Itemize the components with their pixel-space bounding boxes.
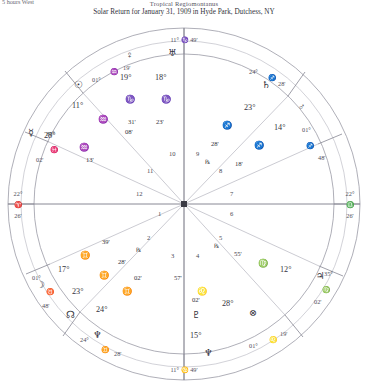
virgo-icon-jupiter: ♍ [258,258,268,268]
planet-node[interactable]: ☊ 24° ♊ 02' [66,274,142,320]
libra-icon: ♎ [346,200,355,209]
chart-header: Tropical Regiomontanus Solar Return for … [0,0,368,17]
svg-text:28': 28' [114,350,121,357]
svg-text:35°: 35° [324,270,333,277]
venus-icon: ♀ [126,49,133,60]
mars-degree: 14° [274,123,285,132]
moon-minute: 39' [102,238,110,245]
jupiter-retrograde-icon: ℞ [214,242,219,249]
svg-text:01°: 01° [92,76,101,83]
svg-text:01°: 01° [302,126,311,133]
planet-pluto[interactable]: ♇ 15° 02' [190,296,201,340]
house-number-4: 4 [196,252,200,259]
planet-venus[interactable]: ♀ 19° ♑ 31' [120,49,136,125]
aquarius-icon: ♒ [110,67,119,76]
planet-fortune[interactable]: ⊗ 28° ♌ 57' [174,274,257,318]
aries-icon: ♈ [14,200,23,209]
house-number-7: 7 [230,190,234,197]
house-number-11: 11 [147,167,153,174]
sun-minute: 08' [125,128,133,135]
cusp-label-5: 01° ♌ 19' [249,330,287,349]
chart-center-hub [181,201,187,207]
mercury2-retrograde-icon: ℞ [136,246,141,253]
pisces-icon: ♓ [50,145,59,154]
sagittarius-icon-saturn: ♐ [222,120,232,130]
jupiter-degree: 12° [280,265,291,274]
house-number-1: 1 [158,210,161,217]
virgo-icon: ♍ [322,285,331,294]
aquarius-icon-sun: ♒ [98,114,108,124]
chart-system-label: Tropical Regiomontanus [0,0,368,8]
house-number-10: 10 [169,150,176,157]
taurus-icon: ♉ [46,287,55,296]
sun-degree: 11° [72,101,83,110]
neptune-bottom-marker[interactable]: ♆ [204,347,213,358]
sagittarius-icon: ♐ [306,141,315,150]
mercury2-degree: 23° [72,287,83,296]
fortune-minute: 57' [174,274,182,281]
midheaven-label: 11° ♑ 49' [170,36,197,44]
planet-uranus[interactable]: ♅ 18° ♑ 23' [155,47,177,125]
gemini-icon-mercury2: ♊ [99,270,109,280]
gemini-icon-node: ♊ [122,286,132,296]
ascendant-minute: 26' [14,212,21,219]
leo-icon-fortune: ♌ [197,286,207,296]
venus-minute: 31' [128,118,136,125]
moon-degree: 17° [58,265,69,274]
node-icon: ☊ [66,309,75,320]
cusp-label-8: 01° ♐ 48' [302,126,325,161]
node-minute: 02' [134,274,142,281]
venus-degree: 19° [120,73,131,82]
mercury2-minute: 28' [118,258,126,265]
gemini-icon: ♊ [101,345,110,354]
svg-text:48': 48' [42,302,49,309]
planet-neptune[interactable]: ♆ [93,329,102,340]
svg-text:24°: 24° [80,336,89,343]
svg-text:28': 28' [278,80,285,87]
neptune-icon-bottom: ♆ [204,347,213,358]
svg-text:19': 19' [123,64,130,71]
uranus-icon: ♅ [168,47,177,58]
house-number-9: 9 [196,150,200,157]
planet-moon[interactable]: ☽ 17° ♊ 39' [36,238,110,290]
saturn-minute: 28' [211,140,219,147]
house-number-3: 3 [171,252,175,259]
planet-sun[interactable]: ☉ 11° ♒ 08' [72,79,133,135]
mercury-minute: 13' [86,156,94,163]
planet-saturn[interactable]: ♄ 23° ♐ 28' ℞ [205,79,271,165]
svg-text:24°: 24° [249,68,258,75]
fortune-icon: ⊗ [249,307,257,318]
mercury-degree: 28° [44,131,55,140]
gemini-icon-moon: ♊ [80,250,90,260]
saturn-icon: ♄ [262,79,271,90]
pluto-icon: ♇ [192,309,201,320]
svg-text:01°: 01° [249,342,258,349]
descendant-minute: 26' [346,212,353,219]
svg-text:19': 19' [280,330,287,337]
saturn-retrograde-icon: ℞ [205,158,210,165]
pluto-degree: 15° [190,331,201,340]
uranus-minute: 23' [156,118,164,125]
jupiter-icon: ♃ [316,270,325,281]
uranus-degree: 18° [155,73,166,82]
mars-minute: 18' [235,160,243,167]
mars-icon: ♂ [298,101,305,112]
leo-icon: ♌ [269,335,278,344]
aquarius-icon-mercury: ♒ [79,142,89,152]
astrology-chart-wheel[interactable]: 11° ♑ 49' 11° ♋ 49' 22° ♈ 26' 22° ♎ 26' … [6,26,362,382]
svg-text:48': 48' [318,154,325,161]
capricorn-icon-venus: ♑ [125,94,135,104]
house-number-5: 5 [219,234,223,241]
capricorn-icon-uranus: ♑ [161,94,171,104]
house-number-2: 2 [147,234,150,241]
ascendant-degree: 22° [14,190,23,197]
house-number-6: 6 [230,210,234,217]
planet-jupiter[interactable]: ♃ 12° ♍ 55' ℞ [214,242,325,281]
imum-coeli-label: 11° ♋ 49' [170,366,197,374]
moon-icon: ☽ [36,279,45,290]
pluto-minute: 02' [192,296,200,303]
house-number-8: 8 [219,167,223,174]
mercury-icon: ☿ [28,127,34,138]
fortune-degree: 28° [222,299,233,308]
svg-text:02': 02' [314,298,321,305]
